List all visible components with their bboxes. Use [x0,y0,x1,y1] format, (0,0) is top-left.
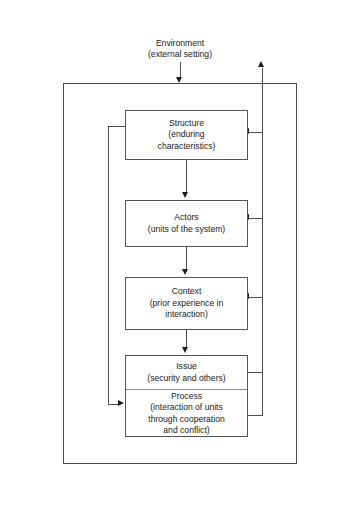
node-issue-process-group: Issue (security and others) Process (int… [125,355,248,437]
arrowhead-context-to-issue [182,347,188,353]
node-context-line3: interaction) [165,309,208,320]
environment-label-title: Environment [156,38,204,48]
connector-issue-to-feedback [248,372,262,373]
node-issue-line1: Issue [176,361,197,372]
node-actors[interactable]: Actors (units of the system) [125,200,248,247]
node-context[interactable]: Context (prior experience in interaction… [125,277,248,330]
node-process[interactable]: Process (interaction of units through co… [126,390,247,437]
connector-left-loop-vertical [108,126,109,404]
arrowhead-structure-to-actors [182,192,188,198]
connector-process-to-feedback [248,415,262,416]
node-process-line1: Process [171,391,202,402]
node-structure-line3: characteristics) [158,141,216,152]
connector-feedback-trunk [262,68,263,416]
node-context-line1: Context [172,286,202,297]
node-context-line2: (prior experience in [150,298,224,309]
arrowhead-feedback-to-environment [258,61,264,67]
node-issue[interactable]: Issue (security and others) [126,356,247,390]
connector-feedback-to-context [249,297,262,298]
node-actors-line1: Actors [174,212,198,223]
connector-actors-to-context [186,247,187,270]
diagram-canvas: Environment (external setting) Structure… [0,0,357,525]
environment-label: Environment (external setting) [120,38,240,61]
connector-structure-left-stub [108,126,125,127]
arrowhead-left-loop-to-process [118,400,124,406]
environment-label-subtitle: (external setting) [148,49,212,59]
connector-environment-to-system [180,62,181,78]
connector-feedback-to-structure [249,132,262,133]
node-actors-line2: (units of the system) [148,224,225,235]
connector-feedback-to-actors [249,218,262,219]
connector-structure-to-actors [186,160,187,193]
node-structure-line2: (enduring [168,129,204,140]
node-issue-line2: (security and others) [147,373,225,384]
node-process-line2: (interaction of units [150,402,223,413]
connector-context-to-issue [186,330,187,348]
arrowhead-actors-to-context [182,269,188,275]
node-structure-line1: Structure [169,118,204,129]
node-process-line3: through cooperation [148,414,224,425]
node-process-line4: and conflict) [163,425,209,436]
node-structure[interactable]: Structure (enduring characteristics) [125,110,248,160]
